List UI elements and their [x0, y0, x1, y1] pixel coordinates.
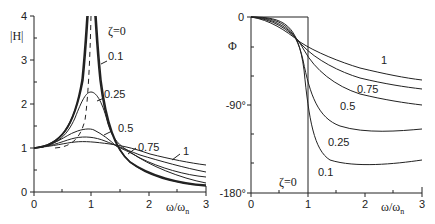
xtick: 0	[31, 198, 37, 210]
curve-zeta-1	[251, 17, 422, 80]
label-zeta-0: ζ=0	[279, 175, 297, 189]
xtick: 1	[88, 198, 94, 210]
label-zeta-0.75: 0.75	[357, 83, 378, 95]
curve-zeta-0.75	[34, 137, 206, 172]
curve-zeta-0.1	[34, 16, 206, 185]
phase-plot: 0 -90° -180° 0 1 2 3 Φ ω/ωn 1 0.75 0.5 0…	[220, 11, 425, 216]
curve-zeta-0.5	[251, 17, 422, 105]
curve-zeta-0.75	[251, 17, 422, 89]
magnitude-plot: 0 1 2 3 4 0 1 2 3 |H| ω/ωn ζ=0 0.1 0.25 …	[10, 10, 209, 216]
xtick: 0	[248, 198, 254, 210]
ytick: -180°	[220, 187, 246, 199]
xtick: 1	[305, 198, 311, 210]
label-zeta-1: 1	[183, 145, 189, 157]
label-zeta-0: ζ=0	[108, 24, 126, 38]
curve-zeta-0.25	[251, 17, 422, 131]
ytick: -90°	[226, 99, 246, 111]
label-zeta-0.25: 0.25	[104, 88, 125, 100]
y-axis-label: Φ	[228, 39, 237, 53]
label-zeta-0.5: 0.5	[340, 100, 355, 112]
ytick: 1	[21, 142, 27, 154]
xtick: 3	[203, 198, 209, 210]
ytick: 0	[238, 11, 244, 23]
label-zeta-0.25: 0.25	[328, 136, 349, 148]
ytick: 4	[21, 10, 27, 22]
label-zeta-0.1: 0.1	[318, 166, 333, 178]
y-axis-label: |H|	[10, 29, 23, 43]
x-axis-label: ω/ωn	[381, 200, 404, 216]
xtick: 2	[362, 198, 368, 210]
left-axes	[34, 16, 206, 192]
ytick: 2	[21, 98, 27, 110]
figure: 0 1 2 3 4 0 1 2 3 |H| ω/ωn ζ=0 0.1 0.25 …	[0, 0, 435, 224]
ytick: 3	[21, 54, 27, 66]
label-zeta-0.1: 0.1	[108, 50, 123, 62]
label-zeta-0.5: 0.5	[118, 122, 133, 134]
xtick: 2	[146, 198, 152, 210]
label-zeta-0.75: 0.75	[138, 141, 159, 153]
xtick: 3	[419, 198, 425, 210]
ytick: 0	[21, 186, 27, 198]
right-axes	[251, 17, 422, 193]
x-axis-label: ω/ωn	[166, 200, 189, 216]
label-zeta-1: 1	[381, 54, 387, 66]
